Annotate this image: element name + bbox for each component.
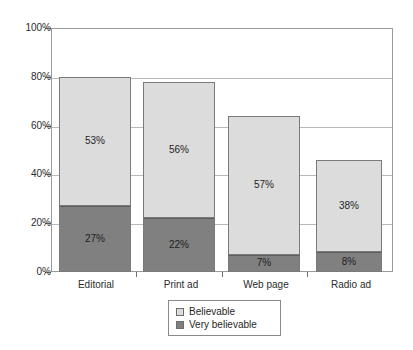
bar-value-print-ad-believable: 56%	[169, 145, 189, 155]
bar-value-web-page-believable: 57%	[254, 180, 274, 190]
bar-web-page[interactable]: 7% 57%	[228, 116, 300, 272]
y-tick-label-100: 100%	[7, 23, 51, 33]
x-tick-mark-1	[136, 272, 137, 277]
bar-segment-editorial-very-believable[interactable]: 27%	[59, 206, 131, 272]
chart-container: 100% 80% 60% 40% 20% 0% 27% 53%	[0, 0, 413, 350]
bar-value-radio-ad-very-believable: 8%	[342, 257, 356, 267]
legend-swatch-believable-icon	[176, 308, 184, 316]
legend-item-believable[interactable]: Believable	[176, 305, 274, 318]
bar-value-editorial-very-believable: 27%	[85, 234, 105, 244]
x-axis-label-web-page: Web page	[224, 279, 308, 291]
legend-item-very-believable[interactable]: Very believable	[176, 318, 274, 331]
bar-radio-ad[interactable]: 8% 38%	[316, 160, 382, 272]
y-tick-label-0: 0%	[7, 267, 51, 277]
x-tick-mark-2	[222, 272, 223, 277]
bar-segment-web-page-believable[interactable]: 57%	[228, 116, 300, 255]
legend-swatch-very-believable-icon	[176, 321, 184, 329]
bar-print-ad[interactable]: 22% 56%	[143, 82, 215, 272]
bar-segment-web-page-very-believable[interactable]: 7%	[228, 255, 300, 272]
y-tick-label-60: 60%	[7, 121, 51, 131]
bar-value-radio-ad-believable: 38%	[339, 201, 359, 211]
x-tick-mark-3	[307, 272, 308, 277]
bar-segment-editorial-believable[interactable]: 53%	[59, 77, 131, 206]
y-tick-label-20: 20%	[7, 218, 51, 228]
bar-editorial[interactable]: 27% 53%	[59, 77, 131, 272]
chart-legend: Believable Very believable	[168, 300, 281, 336]
bar-segment-radio-ad-believable[interactable]: 38%	[316, 160, 382, 253]
bar-value-editorial-believable: 53%	[85, 136, 105, 146]
x-axis-label-radio-ad: Radio ad	[309, 279, 393, 291]
y-tick-label-40: 40%	[7, 169, 51, 179]
bar-segment-radio-ad-very-believable[interactable]: 8%	[316, 252, 382, 272]
bar-value-web-page-very-believable: 7%	[257, 258, 271, 268]
legend-label-believable: Believable	[189, 306, 235, 317]
bar-segment-print-ad-believable[interactable]: 56%	[143, 82, 215, 219]
x-axis-label-print-ad: Print ad	[139, 279, 223, 291]
bar-value-print-ad-very-believable: 22%	[169, 240, 189, 250]
bar-segment-print-ad-very-believable[interactable]: 22%	[143, 218, 215, 272]
y-tick-label-80: 80%	[7, 72, 51, 82]
x-axis-label-editorial: Editorial	[53, 279, 139, 291]
legend-label-very-believable: Very believable	[189, 319, 257, 330]
y-axis: 100% 80% 60% 40% 20% 0%	[0, 28, 51, 272]
